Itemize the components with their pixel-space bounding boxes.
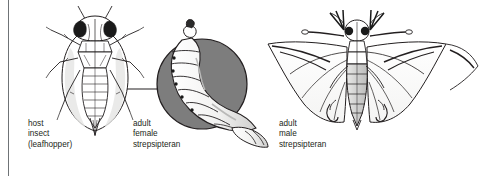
caption-host-insect: host insect (leafhopper) xyxy=(28,119,72,150)
caption-adult-male: adult male strepsipteran xyxy=(279,119,326,150)
leafhopper-illustration xyxy=(46,6,144,136)
figure-artwork xyxy=(0,0,495,176)
caption-female-line-3: strepsipteran xyxy=(133,140,180,150)
caption-host-line-2: insect xyxy=(28,129,72,139)
strepsipteran-figure: host insect (leafhopper) adult female st… xyxy=(0,0,495,176)
caption-host-line-3: (leafhopper) xyxy=(28,140,72,150)
leafhopper-eye-left xyxy=(74,21,87,37)
caption-female-line-2: female xyxy=(133,129,180,139)
caption-host-line-1: host xyxy=(28,119,72,129)
male-strepsipteran-illustration xyxy=(268,10,478,130)
caption-adult-female: adult female strepsipteran xyxy=(133,119,180,150)
caption-male-line-1: adult xyxy=(279,119,326,129)
male-eye-right xyxy=(361,27,369,35)
caption-female-line-1: adult xyxy=(133,119,180,129)
male-eye-left xyxy=(345,27,353,35)
leafhopper-eye-right xyxy=(104,21,117,37)
caption-male-line-3: strepsipteran xyxy=(279,140,326,150)
caption-male-line-2: male xyxy=(279,129,326,139)
